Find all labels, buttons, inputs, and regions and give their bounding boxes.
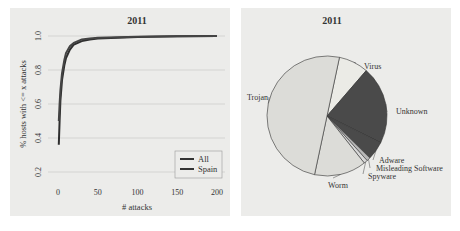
cdf-line-chart: 2011 0.20.40.60.81.0 050100150200 % host… (18, 15, 225, 212)
x-axis-ticks: 050100150200 (56, 188, 223, 197)
pie-label-spyware: Spyware (368, 172, 396, 181)
pie-slices (267, 56, 387, 176)
pie-label-worm: Worm (328, 181, 349, 190)
line-spain (59, 36, 217, 121)
pie-label-trojan: Trojan (247, 93, 268, 102)
cdf-lines (59, 36, 217, 145)
x-tick-label: 100 (132, 188, 144, 197)
x-tick-label: 150 (171, 188, 183, 197)
right-chart-title: 2011 (322, 15, 341, 26)
pie-label-virus: Virus (364, 62, 381, 71)
x-tick-label: 200 (211, 188, 223, 197)
y-axis-label: % hosts with <= x attacks (18, 60, 28, 148)
x-axis-label: # attacks (122, 202, 152, 212)
y-tick-label: 1.0 (34, 31, 43, 41)
x-tick-label: 50 (94, 188, 102, 197)
y-tick-label: 0.8 (34, 65, 43, 75)
charts-canvas: 2011 0.20.40.60.81.0 050100150200 % host… (0, 0, 460, 231)
legend-all: All (198, 154, 210, 164)
x-tick-label: 0 (56, 188, 60, 197)
left-chart-title: 2011 (127, 15, 146, 26)
line-all (59, 36, 217, 145)
y-tick-label: 0.6 (34, 99, 43, 109)
legend-spain: Spain (198, 164, 218, 174)
pie-chart: 2011 VirusUnknownAdwareMisleading Softwa… (247, 15, 443, 190)
y-tick-label: 0.4 (34, 133, 43, 143)
y-tick-label: 0.2 (34, 167, 43, 177)
legend: All Spain (175, 151, 222, 178)
pie-label-unknown: Unknown (396, 107, 428, 116)
y-axis-ticks: 0.20.40.60.81.0 (34, 31, 43, 177)
